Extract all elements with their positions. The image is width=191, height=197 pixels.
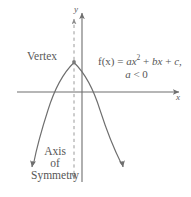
axis-of-symmetry-line-2: of [8,157,102,169]
function-formula: f(x) = ax2 + bx + c, a < 0 [98,55,191,80]
formula-plus-1: + [140,55,152,67]
vertex-point [72,60,76,64]
formula-plus-2: + [162,55,174,67]
formula-constant-c: c, [174,55,182,67]
parabola-right-arm-arrow [122,161,123,167]
y-axis-label: y [74,5,78,15]
axis-of-symmetry-line-3: Symmetry [8,169,102,181]
x-axis-label: x [176,93,180,103]
formula-equals: = [115,55,127,67]
axis-of-symmetry-label: Axis of Symmetry [8,145,102,181]
formula-fx: f(x) [98,55,115,67]
formula-condition: a < 0 [98,68,191,80]
axis-of-symmetry-line-1: Axis [8,145,102,157]
parabola-figure: Vertex y x f(x) = ax2 + bx + c, a < 0 Ax… [0,0,191,197]
vertex-label: Vertex [27,50,57,62]
formula-condition-rest: < 0 [131,68,148,80]
